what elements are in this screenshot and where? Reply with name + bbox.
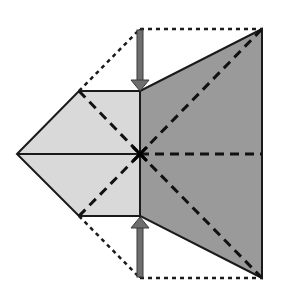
dotted-edge-bottom-diagonal [79,216,140,278]
dotted-edge-top-diagonal [79,29,140,91]
arrow-down-icon [131,30,149,91]
arrow-up-icon [131,217,149,277]
origami-diagram: Origami fold step diagram [0,0,284,294]
diagram-svg [0,0,284,294]
